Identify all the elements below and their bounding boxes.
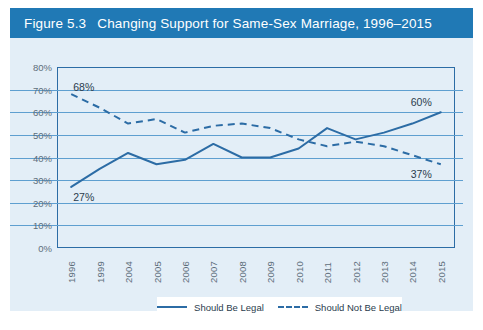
legend-label: Should Not Be Legal <box>315 302 402 313</box>
figure-number: Figure 5.3 <box>10 16 86 31</box>
data-point-label: 37% <box>411 168 432 180</box>
figure-title-bar: Figure 5.3 Changing Support for Same-Sex… <box>10 8 473 38</box>
plot-wrapper: 80%70%60%50%40%30%20%10%0% 1996199920042… <box>10 38 473 311</box>
chart-lines <box>10 38 473 311</box>
chart-legend: Should Be Legal Should Not Be Legal <box>157 297 402 317</box>
legend-swatch-solid-icon <box>157 306 187 308</box>
figure-title-inner: Figure 5.3 Changing Support for Same-Sex… <box>10 16 432 31</box>
page-title: Changing Support for Same-Sex Marriage, … <box>97 16 432 31</box>
figure-container: Figure 5.3 Changing Support for Same-Sex… <box>10 8 473 311</box>
legend-swatch-dashed-icon <box>278 306 308 308</box>
data-point-label: 60% <box>411 96 432 108</box>
legend-item-should-not-be-legal: Should Not Be Legal <box>278 302 402 313</box>
data-point-label: 27% <box>73 191 94 203</box>
legend-label: Should Be Legal <box>194 302 264 313</box>
data-point-label: 68% <box>73 81 94 93</box>
legend-item-should-be-legal: Should Be Legal <box>157 302 264 313</box>
